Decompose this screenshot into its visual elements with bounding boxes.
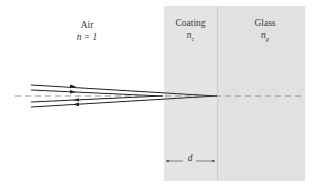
diagram-canvas [0,0,318,192]
coating-index-subscript: c [191,35,194,42]
air-index-label: n = 1 [68,32,106,42]
air-label: Air [72,20,102,30]
glass-index-label: ng [245,30,285,42]
arrow-right-icon [70,90,76,94]
arrow-left-icon [73,103,79,107]
coating-label: Coating [164,18,217,28]
glass-index-subscript: g [266,35,269,42]
arrow-left-icon [73,98,79,101]
thickness-label: d [184,153,196,163]
coating-index-label: nc [164,30,217,42]
glass-label: Glass [245,18,285,28]
